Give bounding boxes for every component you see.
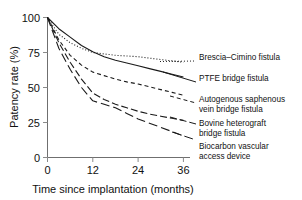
series-line-bovine-heterograft [48,18,184,121]
x-tick-label-24: 24 [132,164,144,176]
legend-label-bovine-line2: bridge fistula [199,129,246,138]
y-tick-label-50: 50 [28,82,40,94]
y-tick-label-25: 25 [28,117,40,129]
legend-label-ptfe: PTFE bridge fistula [199,74,269,83]
legend-label-autogenous-line1: Autogenous saphenous [199,95,285,104]
series-group [48,18,184,136]
y-tick-label-0: 0 [34,152,40,164]
patency-rate-line-chart: 100 75 50 25 0 0 12 24 36 Time since imp… [0,0,302,200]
x-tick-label-36: 36 [177,164,189,176]
legend-group: Brescia–Cimino fistula PTFE bridge fistu… [199,53,285,161]
leader-line-ptfe [163,72,196,82]
chart-figure: 100 75 50 25 0 0 12 24 36 Time since imp… [0,0,302,200]
legend-label-autogenous-line2: vein bridge fistula [199,105,263,114]
legend-label-bovine-line1: Bovine heterograft [199,119,267,128]
x-tick-label-12: 12 [87,164,99,176]
series-line-ptfe [48,18,184,78]
y-axis-title: Patency rate (%) [8,46,20,128]
leader-line-biocarbon [172,132,196,140]
x-axis-title: Time since implantation (months) [32,183,194,195]
leader-line-group [160,61,196,140]
legend-label-brescia-cimino: Brescia–Cimino fistula [199,53,280,62]
y-tick-label-100: 100 [22,12,40,24]
leader-line-autogenous [170,96,196,103]
y-tick-label-75: 75 [28,47,40,59]
series-line-autogenous-saphenous [48,18,184,96]
x-tick-label-0: 0 [44,164,50,176]
series-line-brescia-cimino [48,18,184,63]
legend-label-biocarbon-line1: Biocarbon vascular [199,142,269,151]
tick-label-group: 100 75 50 25 0 0 12 24 36 [22,12,190,177]
leader-line-bovine [170,117,196,124]
legend-label-biocarbon-line2: access device [199,152,251,161]
